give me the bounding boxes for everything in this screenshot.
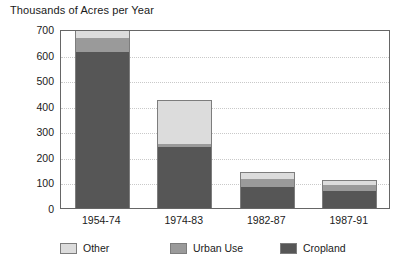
bar-segment-other[interactable] bbox=[75, 30, 130, 38]
y-axis-tick-label: 300 bbox=[10, 127, 54, 138]
bar-segment-urban-use[interactable] bbox=[75, 38, 130, 52]
legend-label: Other bbox=[83, 243, 109, 254]
legend-item-cropland[interactable]: Cropland bbox=[280, 243, 390, 254]
x-axis-tick-label: 1987-91 bbox=[308, 214, 391, 226]
x-axis-tick-label: 1954-74 bbox=[60, 214, 143, 226]
legend-item-urban-use[interactable]: Urban Use bbox=[170, 243, 280, 254]
bar-1954-74[interactable] bbox=[75, 30, 130, 208]
bar-segment-other[interactable] bbox=[240, 172, 295, 179]
x-axis-tick-label: 1974-83 bbox=[143, 214, 226, 226]
bar-1982-87[interactable] bbox=[240, 172, 295, 208]
bar-segment-cropland[interactable] bbox=[322, 191, 377, 208]
legend-label: Urban Use bbox=[193, 243, 243, 254]
bar-1974-83[interactable] bbox=[157, 100, 212, 208]
legend-swatch-icon bbox=[60, 243, 77, 254]
legend-swatch-icon bbox=[280, 243, 297, 254]
y-axis-tick-label: 400 bbox=[10, 102, 54, 113]
y-axis-tick-label: 100 bbox=[10, 178, 54, 189]
chart-legend: OtherUrban UseCropland bbox=[60, 239, 390, 257]
bar-segment-cropland[interactable] bbox=[75, 52, 130, 208]
legend-swatch-icon bbox=[170, 243, 187, 254]
bar-segment-other[interactable] bbox=[157, 100, 212, 144]
legend-label: Cropland bbox=[303, 243, 346, 254]
bar-segment-cropland[interactable] bbox=[157, 147, 212, 208]
bar-segment-cropland[interactable] bbox=[240, 187, 295, 208]
y-axis-tick-label: 500 bbox=[10, 76, 54, 87]
x-axis-tick-label: 1982-87 bbox=[225, 214, 308, 226]
plot-area bbox=[60, 30, 390, 209]
legend-item-other[interactable]: Other bbox=[60, 243, 170, 254]
y-axis-tick-label: 200 bbox=[10, 153, 54, 164]
bar-segment-urban-use[interactable] bbox=[240, 179, 295, 187]
chart-title: Thousands of Acres per Year bbox=[10, 4, 154, 17]
y-axis-tick-label: 700 bbox=[10, 25, 54, 36]
y-axis-tick-label: 600 bbox=[10, 51, 54, 62]
y-axis-tick-label: 0 bbox=[10, 204, 54, 215]
bar-1987-91[interactable] bbox=[322, 180, 377, 208]
chart-container: Thousands of Acres per Year 700600500400… bbox=[0, 0, 399, 267]
